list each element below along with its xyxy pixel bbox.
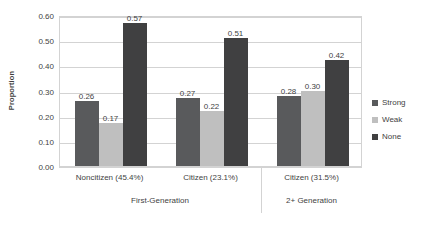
y-axis-tick-label: 0.10 — [18, 137, 54, 146]
y-axis-tick-label: 0.40 — [18, 62, 54, 71]
bar — [99, 123, 123, 166]
legend-label: Weak — [382, 115, 402, 124]
legend-swatch-icon — [372, 134, 378, 140]
bar — [75, 101, 99, 166]
legend-item[interactable]: None — [372, 128, 434, 145]
legend-item[interactable]: Strong — [372, 94, 434, 111]
bar — [325, 60, 349, 166]
group-label: 2+ Generation — [286, 196, 337, 205]
legend-swatch-icon — [372, 117, 378, 123]
category-label: Citizen (31.5%) — [284, 173, 339, 182]
bar — [224, 38, 248, 166]
bar — [176, 98, 200, 166]
category-labels-row: Noncitizen (45.4%)Citizen (23.1%)Citizen… — [59, 167, 362, 190]
legend-swatch-icon — [372, 100, 378, 106]
y-axis-tick-label: 0.30 — [18, 87, 54, 96]
y-axis-tick-labels: 0.000.100.200.300.400.500.60 — [18, 16, 54, 167]
category-label: Noncitizen (45.4%) — [76, 173, 144, 182]
legend-label: None — [382, 132, 401, 141]
bar — [200, 111, 224, 166]
y-axis-tick-label: 0.60 — [18, 12, 54, 21]
bars-layer: 0.260.170.570.270.220.510.280.300.42 — [60, 17, 361, 166]
bar-value-label: 0.26 — [79, 92, 95, 101]
legend-label: Strong — [382, 98, 406, 107]
bar — [301, 91, 325, 167]
bar-chart: Proportion 0.000.100.200.300.400.500.60 … — [0, 0, 436, 227]
bar-value-label: 0.51 — [228, 29, 244, 38]
y-axis-tick-label: 0.50 — [18, 37, 54, 46]
y-axis-title: Proportion — [7, 56, 16, 126]
legend-item[interactable]: Weak — [372, 111, 434, 128]
category-label: Citizen (23.1%) — [183, 173, 238, 182]
bar-value-label: 0.27 — [180, 89, 196, 98]
y-axis-tick-label: 0.00 — [18, 163, 54, 172]
bar-value-label: 0.30 — [305, 82, 321, 91]
bar-value-label: 0.57 — [127, 14, 143, 23]
bar-value-label: 0.17 — [103, 114, 119, 123]
group-labels-row: First-Generation2+ Generation — [59, 190, 362, 213]
bar — [277, 96, 301, 166]
plot-area: 0.260.170.570.270.220.510.280.300.42 — [59, 16, 362, 167]
bar-value-label: 0.22 — [204, 102, 220, 111]
legend: StrongWeakNone — [372, 94, 434, 145]
category-axis: Noncitizen (45.4%)Citizen (23.1%)Citizen… — [59, 167, 362, 213]
bar-value-label: 0.42 — [329, 51, 345, 60]
y-axis-tick-label: 0.20 — [18, 112, 54, 121]
bar-value-label: 0.28 — [281, 87, 297, 96]
bar — [123, 23, 147, 166]
group-separator — [261, 167, 262, 213]
group-label: First-Generation — [131, 196, 189, 205]
